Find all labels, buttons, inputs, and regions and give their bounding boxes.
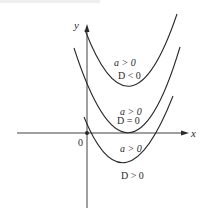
origin-label: 0	[78, 137, 83, 148]
label-a-positive-3: a > 0	[120, 143, 142, 154]
parabola-diagram: x y 0 a > 0 D < 0 a > 0 D = 0 a > 0 D > …	[0, 0, 202, 216]
label-d-positive: D > 0	[121, 170, 144, 181]
label-d-negative: D < 0	[118, 70, 141, 81]
x-axis-label: x	[190, 127, 196, 139]
origin-point	[85, 131, 89, 135]
label-d-zero: D = 0	[117, 115, 140, 126]
y-axis	[85, 24, 90, 208]
label-a-positive-1: a > 0	[114, 57, 136, 68]
x-axis-arrow-icon	[181, 131, 189, 136]
x-axis	[17, 131, 189, 136]
y-axis-label: y	[73, 19, 79, 31]
